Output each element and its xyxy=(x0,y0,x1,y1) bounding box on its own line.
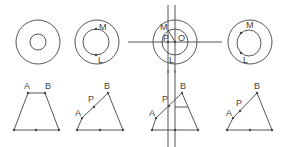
label-l: L xyxy=(169,55,174,65)
center-o xyxy=(174,41,176,43)
base-left-point xyxy=(151,129,153,131)
concentric-circles-1 xyxy=(16,20,60,64)
point-a xyxy=(27,92,29,94)
point-m xyxy=(240,32,242,34)
label-m: M xyxy=(160,22,168,32)
trapezoid-outline xyxy=(77,93,123,130)
radius-segment xyxy=(168,30,175,42)
inner-circle xyxy=(30,34,46,50)
diagram-canvas: M L M P O L M L A B xyxy=(0,0,289,147)
base-left-point xyxy=(13,129,15,131)
trapezoid-outline xyxy=(227,93,272,130)
label-p: P xyxy=(163,33,169,43)
point-p xyxy=(239,110,241,112)
base-right-point xyxy=(58,129,60,131)
label-b: B xyxy=(45,81,51,91)
trapezoid-outline xyxy=(14,93,59,130)
label-a: A xyxy=(75,108,81,118)
label-o: O xyxy=(178,33,185,43)
label-m: M xyxy=(246,20,254,30)
label-p: P xyxy=(236,98,242,108)
point-l xyxy=(240,52,242,54)
base-mid-point xyxy=(174,129,176,131)
point-b xyxy=(181,92,183,94)
point-b xyxy=(107,92,109,94)
label-b: B xyxy=(180,81,186,91)
point-b xyxy=(44,92,46,94)
trapezoid-1: A B xyxy=(13,81,60,131)
label-b: B xyxy=(254,81,260,91)
point-a xyxy=(81,117,83,119)
base-right-point xyxy=(197,129,199,131)
label-a: A xyxy=(226,108,232,118)
point-a xyxy=(155,117,157,119)
trapezoid-4: A P B xyxy=(226,81,273,131)
label-m: M xyxy=(99,22,107,32)
outer-circle xyxy=(16,20,60,64)
point-b xyxy=(256,92,258,94)
label-p: P xyxy=(162,94,168,104)
trapezoid-3-construction: A P B xyxy=(149,70,199,147)
label-l: L xyxy=(243,55,248,65)
base-mid-point xyxy=(99,129,101,131)
base-right-point xyxy=(122,129,124,131)
base-mid-point xyxy=(35,129,37,131)
concentric-circles-2: M L xyxy=(75,20,119,65)
outer-circle xyxy=(75,20,119,64)
label-b: B xyxy=(104,81,110,91)
inner-loop xyxy=(83,29,109,55)
concentric-circles-4: M L xyxy=(228,20,272,65)
base-right-point xyxy=(271,129,273,131)
point-p xyxy=(168,105,170,107)
trapezoid-2: A P B xyxy=(75,81,124,131)
label-a: A xyxy=(149,108,155,118)
point-l xyxy=(95,54,97,56)
point-p xyxy=(93,106,95,108)
label-a: A xyxy=(24,81,30,91)
construction-circles-3: M P O L xyxy=(128,5,222,73)
label-l: L xyxy=(98,55,103,65)
base-left-point xyxy=(226,129,228,131)
point-m xyxy=(95,28,97,30)
point-a xyxy=(232,117,234,119)
base-mid-point xyxy=(249,129,251,131)
base-left-point xyxy=(76,129,78,131)
label-p: P xyxy=(88,94,94,104)
